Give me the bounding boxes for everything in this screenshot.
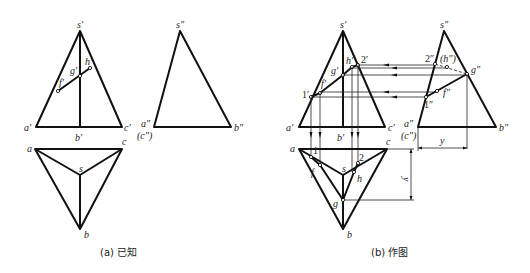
side-view-b: s″ a″ (c″) b″ 2″ (h″) g″ 1″ f″ y xyxy=(401,19,509,151)
side-view-a: s″ a″ (c″) b″ xyxy=(137,19,244,142)
label-s-top: s xyxy=(79,163,83,174)
label-c-front: c′ xyxy=(388,122,395,133)
label-2-side: 2″ xyxy=(425,53,434,64)
label-f-front: f′ xyxy=(321,78,327,89)
label-b-side: b″ xyxy=(499,122,509,133)
label-y-top: y xyxy=(401,176,412,182)
point-h-top xyxy=(352,170,355,173)
label-s-side: s″ xyxy=(176,19,185,30)
label-c-top: c xyxy=(122,136,127,147)
section-polyline-top xyxy=(311,157,358,200)
label-s-top: s xyxy=(342,163,346,174)
label-b-front: b′ xyxy=(337,132,345,143)
label-b-front: b′ xyxy=(75,132,83,143)
label-c-front: c′ xyxy=(124,122,131,133)
label-g-front: g′ xyxy=(331,65,339,76)
label-g-side: g″ xyxy=(471,64,481,75)
label-b-top: b xyxy=(347,229,352,240)
label-h-front: h′ xyxy=(85,56,93,67)
label-a-side: a″ xyxy=(404,118,414,129)
label-1-top: 1 xyxy=(313,145,318,156)
side-triangle xyxy=(154,31,231,127)
caption-a: (a) 已知 xyxy=(100,246,137,258)
front-view-b: s′ a′ b′ c′ 1′ f′ g′ h′ 2′ xyxy=(286,19,395,143)
top-triangle xyxy=(35,149,122,229)
label-s-side: s″ xyxy=(440,19,449,30)
label-g-front: g′ xyxy=(70,65,78,76)
label-a-top: a xyxy=(27,143,32,154)
point-f-side xyxy=(435,89,438,92)
label-h-front: h′ xyxy=(346,55,354,66)
label-1-front: 1′ xyxy=(302,89,309,100)
label-2-front: 2′ xyxy=(361,54,368,65)
label-y-side: y xyxy=(439,135,445,146)
point-f-top xyxy=(318,163,321,166)
label-s-front: s′ xyxy=(340,19,347,30)
label-a-top: a xyxy=(290,143,295,154)
point-g-top xyxy=(341,198,344,201)
label-c-side: (c″) xyxy=(401,130,417,142)
label-h-top: h xyxy=(357,173,362,184)
label-s-front: s′ xyxy=(77,19,84,30)
label-1-side: 1″ xyxy=(424,99,433,110)
label-a-front: a′ xyxy=(286,122,294,133)
label-a-side: a″ xyxy=(141,118,151,129)
point-f xyxy=(56,89,59,92)
front-view-a: s′ a′ b′ c′ f′ g′ h′ xyxy=(24,19,131,143)
panel-b: s′ a′ b′ c′ 1′ f′ g′ h′ 2′ xyxy=(286,19,509,258)
label-2-top: 2 xyxy=(359,152,364,163)
point-g xyxy=(78,74,81,77)
label-g-top: g xyxy=(333,198,338,209)
label-f-front: f′ xyxy=(59,77,65,88)
label-c-side: (c″) xyxy=(137,130,153,142)
point-h-side xyxy=(445,65,448,68)
label-b-side: b″ xyxy=(234,122,244,133)
label-f-side: f″ xyxy=(443,87,451,98)
label-c-top: c xyxy=(386,136,391,147)
label-a-front: a′ xyxy=(24,122,32,133)
projection-diagram: s′ a′ b′ c′ f′ g′ h′ s″ a″ (c″) b″ a c s… xyxy=(0,0,530,273)
label-h-side: (h″) xyxy=(440,53,456,65)
caption-b: (b) 作图 xyxy=(371,247,408,258)
top-view-a: a c s b xyxy=(27,136,127,240)
label-b-top: b xyxy=(84,229,89,240)
panel-a: s′ a′ b′ c′ f′ g′ h′ s″ a″ (c″) b″ a c s… xyxy=(24,19,244,258)
